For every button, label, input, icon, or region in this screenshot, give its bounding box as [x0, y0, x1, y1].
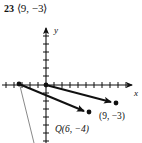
point-terminal-9-neg3	[114, 101, 119, 106]
vectors-group	[19, 84, 111, 111]
point-origin	[44, 83, 49, 88]
label-point-q: Q(6, −4)	[55, 124, 89, 135]
exercise-vector-notation: ⟨9, −3⟩	[17, 2, 48, 14]
coordinate-plane-svg: x y (9, −3) Q(6, −4)	[0, 14, 142, 143]
figure-screenshot: 23 ⟨9, −3⟩	[0, 0, 142, 143]
exercise-number: 23	[4, 3, 14, 14]
point-q-6-neg4	[87, 110, 92, 115]
label-terminal-point: (9, −3)	[99, 111, 125, 122]
leader-line	[20, 86, 34, 143]
vector-pq	[19, 84, 84, 111]
coordinate-plane: x y (9, −3) Q(6, −4)	[0, 14, 142, 143]
point-initial-p	[17, 82, 22, 87]
points-group	[17, 82, 119, 115]
x-axis-label: x	[133, 88, 138, 98]
y-axis-label: y	[53, 25, 58, 35]
